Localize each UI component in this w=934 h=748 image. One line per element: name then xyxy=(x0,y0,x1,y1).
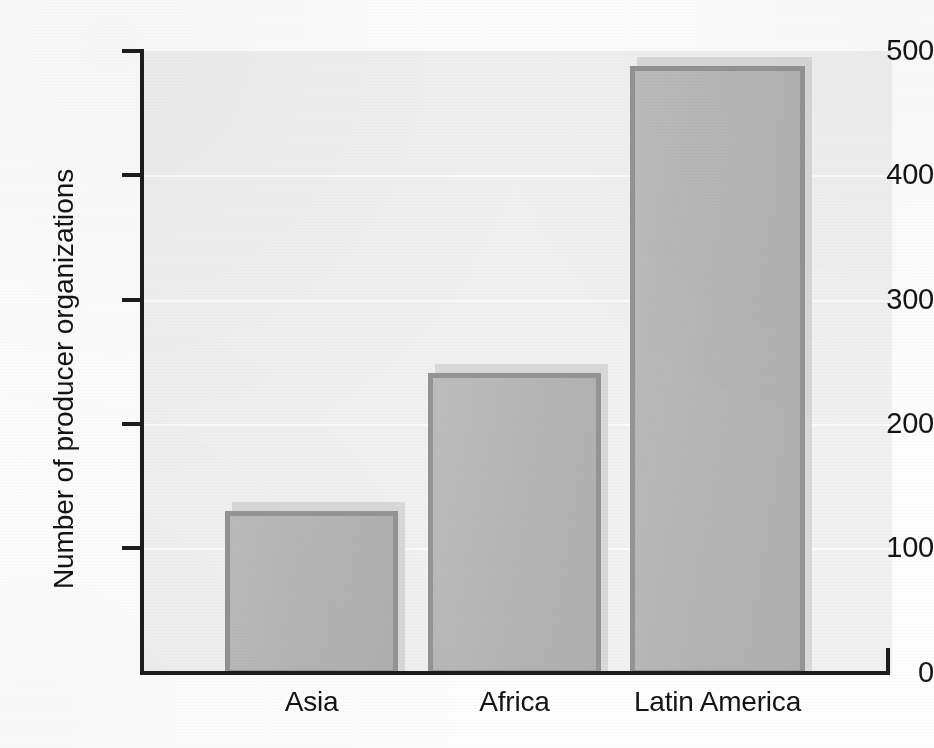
bar-asia[interactable] xyxy=(225,511,398,675)
bar-latin-america[interactable] xyxy=(630,66,805,675)
bar-africa[interactable] xyxy=(428,373,601,675)
x-axis-line xyxy=(140,671,890,675)
x-axis-label-africa: Africa xyxy=(428,686,601,718)
bar-chart: 500 400 300 200 100 0 Number of producer… xyxy=(0,0,934,748)
y-tick-label-300: 300 xyxy=(822,285,934,314)
y-tick-label-200: 200 xyxy=(822,409,934,438)
y-tick-mark-200 xyxy=(122,422,144,426)
y-tick-label-0: 0 xyxy=(822,658,934,687)
y-tick-mark-400 xyxy=(122,173,144,177)
x-axis-label-latin-america: Latin America xyxy=(613,686,822,718)
y-tick-label-500: 500 xyxy=(822,36,934,65)
chart-page: 500 400 300 200 100 0 Number of producer… xyxy=(0,0,934,748)
y-tick-mark-500 xyxy=(122,49,144,53)
y-axis-title: Number of producer organizations xyxy=(48,69,80,689)
x-axis-label-asia: Asia xyxy=(225,686,398,718)
y-tick-mark-300 xyxy=(122,298,144,302)
y-tick-mark-100 xyxy=(122,546,144,550)
y-tick-label-100: 100 xyxy=(822,533,934,562)
y-axis-line xyxy=(140,50,144,675)
y-tick-label-400: 400 xyxy=(822,160,934,189)
